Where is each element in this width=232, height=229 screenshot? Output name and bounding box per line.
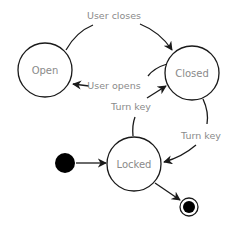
label-user-opens: User opens [87, 80, 140, 91]
edge-user-closes-start [66, 25, 93, 50]
state-closed[interactable]: Closed [165, 46, 219, 100]
edge-locked-to-final [155, 183, 180, 200]
state-locked-label: Locked [117, 159, 152, 170]
edge-user-opens-start [148, 64, 167, 76]
label-turn-key-unlock: Turn key [110, 101, 151, 112]
state-closed-label: Closed [175, 68, 209, 79]
state-open[interactable]: Open [18, 43, 72, 97]
transition-turn-key-lock: Turn key [164, 99, 221, 162]
transition-user-opens: User opens [73, 64, 167, 91]
state-locked[interactable]: Locked [107, 137, 161, 191]
edge-turn-key-lock-end [164, 145, 196, 162]
label-turn-key-lock: Turn key [180, 130, 221, 141]
label-user-closes: User closes [87, 10, 141, 21]
state-open-label: Open [32, 65, 59, 76]
transition-user-closes: User closes [66, 10, 172, 50]
edge-turn-key-unlock-end [147, 86, 166, 98]
initial-state-icon [55, 153, 75, 173]
state-diagram: User closes User opens Turn key Turn key… [0, 0, 232, 229]
transition-turn-key-unlock: Turn key [110, 86, 166, 136]
edge-turn-key-lock-start [203, 99, 208, 124]
edge-user-closes-end [140, 24, 172, 50]
edge-turn-key-unlock-start [133, 117, 135, 136]
final-state-icon [180, 198, 198, 216]
